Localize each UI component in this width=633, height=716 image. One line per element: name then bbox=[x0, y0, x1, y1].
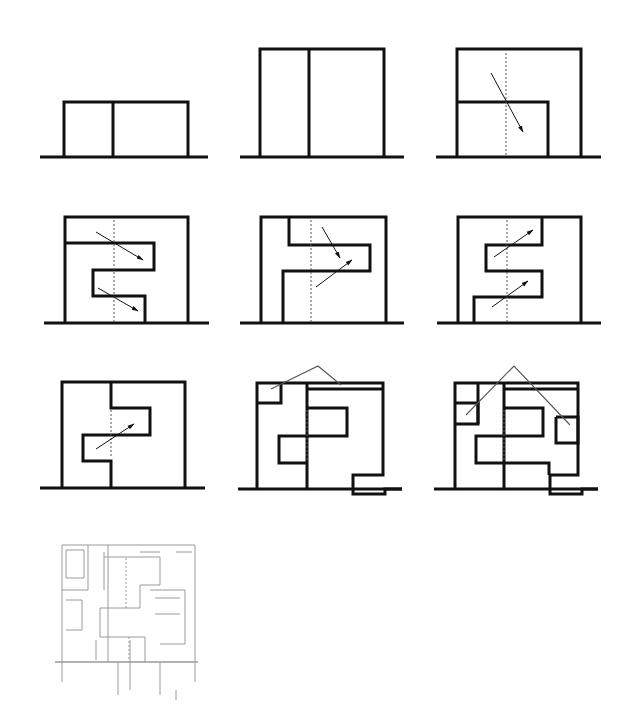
wall-outline bbox=[64, 102, 188, 157]
wall-outline bbox=[65, 243, 154, 323]
view-arrow-icon bbox=[96, 232, 143, 260]
section-panel-p4 bbox=[44, 217, 209, 323]
view-arrow-icon bbox=[316, 260, 352, 287]
section-panel-p8 bbox=[238, 366, 402, 494]
wall-outline bbox=[476, 408, 549, 475]
wall-outline bbox=[260, 49, 384, 157]
section-panel-p5 bbox=[240, 217, 404, 323]
view-arrow-icon bbox=[492, 281, 528, 307]
view-arrow-icon bbox=[98, 288, 138, 311]
section-panel-p9 bbox=[434, 366, 598, 494]
section-panel-p10 bbox=[55, 545, 198, 700]
section-panel-p2 bbox=[240, 49, 404, 157]
view-arrow-icon bbox=[322, 227, 340, 258]
section-panel-p1 bbox=[40, 102, 208, 157]
wall-outline bbox=[556, 417, 578, 443]
diagram-canvas: Section diagrams: evolution of split-lev… bbox=[0, 0, 633, 716]
wall-outline bbox=[474, 217, 542, 323]
sightline bbox=[466, 366, 570, 425]
section-panel-p7 bbox=[40, 382, 205, 488]
section-diagrams bbox=[0, 0, 633, 716]
wall-outline bbox=[279, 408, 347, 463]
drawing-line bbox=[66, 600, 82, 630]
section-panel-p3 bbox=[436, 49, 601, 157]
wall-outline bbox=[457, 102, 548, 157]
wall-outline bbox=[283, 217, 370, 323]
section-panel-p6 bbox=[437, 217, 601, 323]
drawing-line bbox=[66, 550, 84, 578]
